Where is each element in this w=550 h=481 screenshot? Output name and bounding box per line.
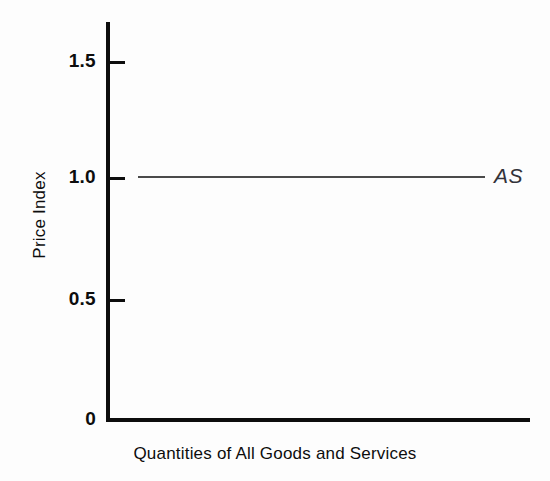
y-tick-label-0: 0: [50, 408, 96, 430]
y-axis-line: [106, 22, 110, 422]
y-tick-mark-0-5: [110, 299, 125, 302]
y-axis-title: Price Index: [30, 145, 50, 285]
y-tick-label-1-5: 1.5: [50, 50, 96, 72]
y-tick-mark-1-0: [110, 177, 125, 180]
y-tick-label-1-0: 1.0: [50, 166, 96, 188]
x-axis-title: Quantities of All Goods and Services: [0, 444, 550, 464]
y-tick-mark-1-5: [110, 61, 125, 64]
as-supply-line: [138, 176, 485, 178]
aggregate-supply-chart: 1.5 1.0 0.5 0 Price Index Quantities of …: [0, 0, 550, 481]
as-series-label: AS: [494, 164, 523, 188]
x-axis-line: [106, 418, 530, 422]
y-tick-label-0-5: 0.5: [50, 288, 96, 310]
